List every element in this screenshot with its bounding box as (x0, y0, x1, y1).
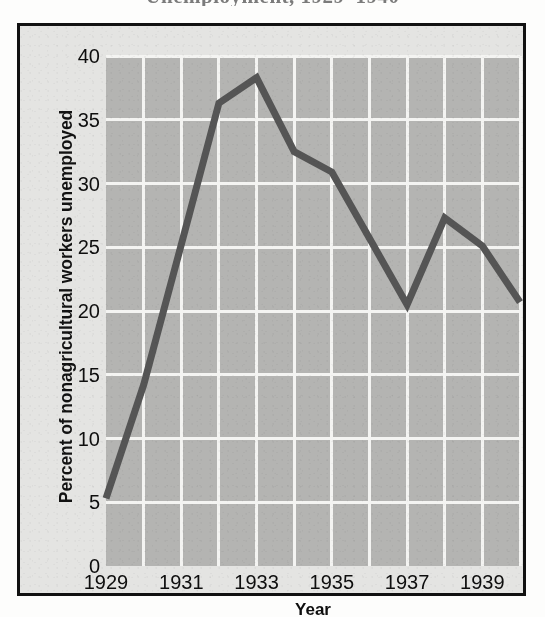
line-series (106, 56, 520, 566)
y-axis-tick-labels: 0510152025303540 (38, 26, 100, 599)
plot-area (106, 56, 520, 566)
x-tick-label: 1929 (84, 571, 129, 594)
y-tick-label: 35 (56, 110, 100, 130)
x-tick-label: 1937 (385, 571, 430, 594)
y-tick-label: 40 (56, 46, 100, 66)
y-tick-label: 25 (56, 237, 100, 257)
x-tick-label: 1939 (460, 571, 505, 594)
y-tick-label: 10 (56, 429, 100, 449)
y-tick-label: 20 (56, 301, 100, 321)
x-axis-title: Year (106, 600, 520, 617)
x-tick-label: 1931 (159, 571, 204, 594)
x-tick-label: 1933 (234, 571, 279, 594)
x-tick-label: 1935 (310, 571, 355, 594)
figure-page: Unemployment, 1929–1940 Percent of nonag… (0, 0, 545, 617)
x-axis-tick-labels: 192919311933193519371939 (20, 571, 529, 601)
y-tick-label: 5 (56, 492, 100, 512)
figure-title-cropped: Unemployment, 1929–1940 (0, 0, 545, 6)
y-tick-label: 15 (56, 365, 100, 385)
chart-frame: Percent of nonagricultural workers unemp… (17, 23, 526, 596)
y-tick-label: 30 (56, 174, 100, 194)
